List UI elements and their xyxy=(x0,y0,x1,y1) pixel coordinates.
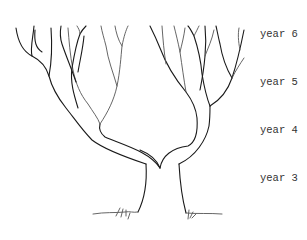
year-3-label: year 3 xyxy=(260,172,298,184)
left-limb xyxy=(16,26,160,168)
year-5-label: year 5 xyxy=(260,76,298,88)
year-4-label: year 4 xyxy=(260,124,298,136)
right-limb xyxy=(150,26,244,168)
year-6-label: year 6 xyxy=(260,28,298,40)
trunk xyxy=(138,150,186,213)
ground xyxy=(93,208,222,219)
